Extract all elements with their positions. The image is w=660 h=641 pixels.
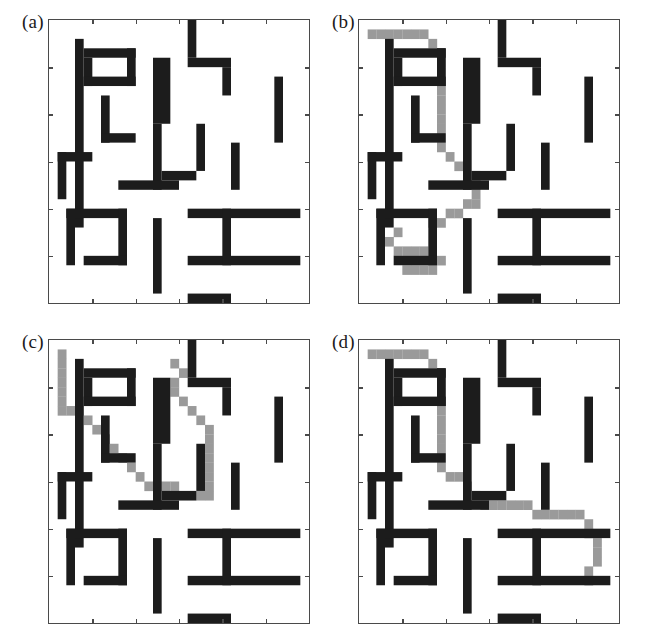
y-axis-tick-right (305, 162, 309, 163)
obstacle-cell (66, 209, 127, 218)
obstacle-cell (376, 529, 385, 586)
path-cell (84, 415, 93, 425)
x-axis-tick (446, 619, 447, 623)
panel-label-b: (b) (332, 12, 355, 31)
obstacle-cell (222, 209, 231, 266)
x-axis-tick (532, 299, 533, 303)
path-cell (394, 228, 403, 238)
y-axis-tick (49, 387, 53, 388)
x-axis-tick-top (179, 340, 180, 344)
x-axis-tick-top (92, 20, 93, 24)
path-cell (368, 349, 377, 359)
x-axis-tick (92, 299, 93, 303)
y-axis-tick (359, 482, 363, 483)
path-cell (144, 482, 153, 492)
path-cell (428, 39, 437, 49)
obstacle-cell (188, 378, 231, 387)
obstacle-cell (188, 20, 197, 58)
obstacle-cell (222, 529, 231, 586)
y-axis-tick-right (615, 529, 619, 530)
obstacle-cell (222, 387, 231, 415)
x-axis-tick-top (222, 20, 223, 24)
path-cell (402, 246, 411, 256)
path-cell (179, 368, 188, 378)
y-axis-tick-right (615, 209, 619, 210)
y-axis-tick-right (305, 434, 309, 435)
path-cell (437, 143, 446, 153)
x-axis-tick (576, 299, 577, 303)
x-axis-tick-top (179, 20, 180, 24)
x-axis-tick-top (402, 340, 403, 344)
y-axis-tick (49, 162, 53, 163)
y-axis-tick (359, 256, 363, 257)
y-axis-tick (359, 576, 363, 577)
y-axis-tick (49, 529, 53, 530)
obstacle-cell (231, 143, 240, 190)
path-cell (385, 349, 394, 359)
obstacle-cell (196, 124, 205, 171)
y-axis-tick-right (615, 387, 619, 388)
obstacle-cell (498, 378, 541, 387)
path-cell (437, 434, 446, 444)
obstacle-cell (411, 453, 446, 462)
path-cell (127, 463, 136, 473)
y-axis-tick (49, 434, 53, 435)
path-cell (437, 86, 446, 96)
panel-a: (a) (20, 12, 330, 312)
obstacle-cell (394, 256, 437, 265)
x-axis-tick (402, 299, 403, 303)
path-cell (437, 124, 446, 134)
path-cell (411, 265, 420, 275)
path-cell (110, 444, 119, 454)
path-cell (437, 415, 446, 425)
y-axis-tick-right (305, 387, 309, 388)
obstacle-cell (498, 340, 507, 378)
obstacle-cell (274, 397, 283, 463)
y-axis-tick-right (305, 67, 309, 68)
x-axis-tick (179, 619, 180, 623)
path-cell (170, 482, 179, 492)
x-axis-tick (222, 619, 223, 623)
obstacle-cell (472, 491, 507, 500)
path-cell (472, 190, 481, 200)
x-axis-tick-top (532, 20, 533, 24)
obstacle-cell (506, 124, 515, 171)
obstacle-cell (463, 444, 472, 510)
x-axis-tick-top (266, 340, 267, 344)
obstacle-cell (498, 209, 611, 218)
path-cell (402, 29, 411, 39)
path-cell (584, 519, 593, 529)
y-axis-tick (49, 256, 53, 257)
obstacle-cell (463, 58, 480, 124)
obstacle-cell (84, 576, 127, 585)
obstacle-cell (472, 171, 507, 180)
x-axis-tick (532, 619, 533, 623)
x-axis-tick (136, 619, 137, 623)
obstacle-cell (222, 67, 231, 95)
obstacle-cell (498, 529, 611, 538)
path-cell (446, 209, 455, 219)
y-axis-tick (49, 482, 53, 483)
x-axis-tick-top (489, 20, 490, 24)
y-axis-tick-right (615, 434, 619, 435)
panel-c: (c) (20, 332, 330, 632)
path-cell (428, 265, 437, 275)
path-cell (437, 425, 446, 435)
obstacle-cell (153, 124, 162, 190)
obstacle-cell (376, 209, 385, 266)
obstacle-cell (498, 20, 507, 58)
obstacle-cell (584, 397, 593, 463)
obstacle-cell (498, 614, 541, 623)
x-axis-tick-top (532, 340, 533, 344)
path-cell (420, 246, 429, 256)
y-axis-tick-right (615, 162, 619, 163)
path-cell (58, 349, 67, 359)
path-cell (136, 472, 145, 482)
obstacle-cell (118, 180, 179, 189)
path-cell (66, 406, 75, 416)
path-layer-d (368, 349, 602, 585)
path-cell (437, 218, 446, 228)
path-cell (205, 491, 214, 501)
path-cell (437, 95, 446, 105)
plot-frame-d (358, 339, 620, 624)
